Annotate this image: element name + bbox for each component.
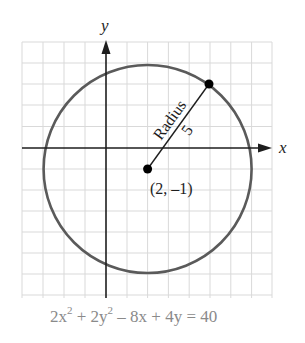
coordinate-diagram: x y Radius 5 (2, –1) 2x2 + 2y2 – 8x + 4y… xyxy=(0,0,305,343)
center-point xyxy=(143,165,152,174)
radius-value: 5 xyxy=(178,122,196,138)
y-axis-label: y xyxy=(99,16,109,35)
center-label: (2, –1) xyxy=(150,180,193,198)
x-axis-arrow-icon xyxy=(258,144,272,153)
x-axis xyxy=(22,144,272,153)
x-axis-label: x xyxy=(278,138,287,157)
radius-endpoint xyxy=(205,80,214,89)
equation: 2x2 + 2y2 – 8x + 4y = 40 xyxy=(50,304,217,326)
